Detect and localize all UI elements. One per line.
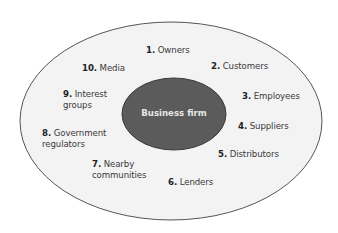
stakeholder-lenders: 6. Lenders xyxy=(168,177,213,188)
stakeholder-number: 3. xyxy=(242,91,251,101)
stakeholder-label: Owners xyxy=(158,45,190,55)
stakeholder-media: 10. Media xyxy=(82,63,125,74)
stakeholder-employees: 3. Employees xyxy=(242,91,300,102)
stakeholder-number: 9. xyxy=(63,89,72,99)
stakeholder-label: Customers xyxy=(223,61,268,71)
stakeholder-suppliers: 4. Suppliers xyxy=(238,121,289,132)
center-label: Business firm xyxy=(122,108,226,118)
stakeholder-label-line2: communities xyxy=(92,170,146,181)
stakeholder-number: 7. xyxy=(92,159,101,169)
stakeholder-label: Nearby xyxy=(104,159,134,169)
stakeholder-label: Suppliers xyxy=(250,121,289,131)
stakeholder-government-regulators: 8. Government regulators xyxy=(42,128,106,149)
stakeholder-label: Media xyxy=(100,63,125,73)
stakeholder-number: 1. xyxy=(146,45,155,55)
stakeholder-label: Government xyxy=(54,128,107,138)
stakeholder-number: 2. xyxy=(211,61,220,71)
stakeholder-distributors: 5. Distributors xyxy=(218,149,279,160)
stakeholder-owners: 1. Owners xyxy=(146,45,190,56)
stakeholder-label: Distributors xyxy=(230,149,279,159)
stakeholder-number: 8. xyxy=(42,128,51,138)
stakeholder-number: 5. xyxy=(218,149,227,159)
stakeholder-label: Employees xyxy=(254,91,300,101)
stakeholder-label-line2: groups xyxy=(63,100,107,111)
stakeholder-number: 4. xyxy=(238,121,247,131)
stakeholder-diagram: Business firm 1. Owners 2. Customers 3. … xyxy=(0,0,338,233)
stakeholder-label-line2: regulators xyxy=(42,139,106,150)
stakeholder-customers: 2. Customers xyxy=(211,61,268,72)
stakeholder-number: 10. xyxy=(82,63,97,73)
stakeholder-interest-groups: 9. Interest groups xyxy=(63,89,107,110)
stakeholder-number: 6. xyxy=(168,177,177,187)
stakeholder-nearby-communities: 7. Nearby communities xyxy=(92,159,146,180)
stakeholder-label: Interest xyxy=(75,89,107,99)
stakeholder-label: Lenders xyxy=(180,177,213,187)
